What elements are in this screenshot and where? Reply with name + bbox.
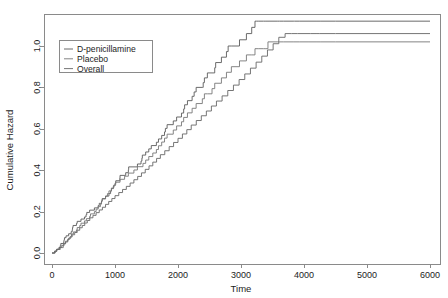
y-tick-label: 0.2	[32, 205, 42, 218]
cumulative-hazard-plot: 0.00.20.40.60.81.0 010002000300040005000…	[0, 0, 448, 298]
x-tick-label: 5000	[357, 270, 377, 280]
y-tick-label: 0.6	[32, 123, 42, 136]
x-tick-label: 0	[49, 270, 54, 280]
y-axis-title: Cumulative Hazard	[4, 110, 15, 191]
x-tick-label: 4000	[294, 270, 314, 280]
x-tick-label: 3000	[231, 270, 251, 280]
x-tick-label: 1000	[105, 270, 125, 280]
y-tick-label: 1.0	[32, 40, 42, 53]
y-tick-label: 0.0	[32, 247, 42, 260]
x-tick-label: 6000	[420, 270, 440, 280]
x-axis-title: Time	[231, 283, 252, 294]
legend-label: Placebo	[77, 54, 108, 64]
legend-label: D-penicillamine	[77, 44, 136, 54]
y-tick-label: 0.4	[32, 164, 42, 177]
x-tick-label: 2000	[168, 270, 188, 280]
y-tick-label: 0.8	[32, 81, 42, 94]
chart-legend: D-penicillaminePlaceboOverall	[60, 41, 153, 74]
legend-label: Overall	[77, 64, 104, 74]
chart-page: 0.00.20.40.60.81.0 010002000300040005000…	[0, 0, 448, 298]
